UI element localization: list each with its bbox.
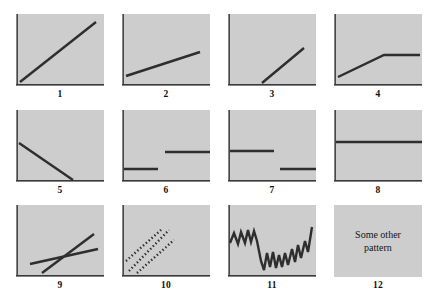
panel-4-rising-then-plateau [334,14,422,86]
panel-plot [334,14,422,86]
panel-8-flat-line [334,110,422,182]
panel-cell: 9 [14,205,106,299]
panel-plot [16,14,104,86]
pattern-grid-figure: 1234567891011Some other pattern12 [0,0,438,305]
data-line-1 [262,48,304,83]
panel-plot [228,205,316,277]
panel-5-falling-line [16,110,104,182]
panel-plot [228,14,316,86]
panel-text-label: Some other pattern [334,205,422,277]
panel-12-text-placeholder: Some other pattern [334,205,422,277]
panel-11-volatile-zigzag [228,205,316,277]
data-line-1 [338,55,420,77]
panel-plot [228,110,316,182]
panel-caption: 2 [164,89,169,100]
panel-cell: 3 [226,14,318,108]
panel-cell: 6 [120,110,212,204]
panel-caption: 3 [270,89,275,100]
panel-plot [122,205,210,277]
panel-caption: 5 [58,185,63,196]
panel-caption: 1 [58,89,63,100]
panel-cell: Some other pattern12 [332,205,424,299]
panel-cell: 4 [332,14,424,108]
panel-2-shallow-rising-line [122,14,210,86]
panel-plot [122,110,210,182]
panel-plot [16,205,104,277]
panel-caption: 4 [376,89,381,100]
panel-7-step-down [228,110,316,182]
panel-caption: 12 [373,280,383,291]
panel-plot [334,110,422,182]
panel-caption: 8 [376,185,381,196]
panel-3-delayed-rising-line [228,14,316,86]
panel-plot [122,14,210,86]
panel-caption: 9 [58,280,63,291]
panel-grid: 1234567891011Some other pattern12 [0,0,438,305]
panel-1-steep-rising-line [16,14,104,86]
data-line-1 [20,22,96,82]
panel-cell: 8 [332,110,424,204]
panel-cell: 10 [120,205,212,299]
data-line-1 [126,229,162,261]
panel-caption: 6 [164,185,169,196]
panel-plot [16,110,104,182]
panel-cell: 5 [14,110,106,204]
panel-caption: 10 [161,280,171,291]
data-line-1 [230,227,312,270]
data-line-2 [42,234,94,273]
panel-cell: 11 [226,205,318,299]
panel-cell: 1 [14,14,106,108]
panel-10-three-parallel-dotted-lines [122,205,210,277]
data-line-1 [19,143,73,180]
data-line-1 [126,52,200,76]
panel-cell: 7 [226,110,318,204]
panel-cell: 2 [120,14,212,108]
panel-6-step-up [122,110,210,182]
panel-caption: 7 [270,185,275,196]
panel-caption: 11 [267,280,276,291]
panel-9-crossing-lines [16,205,104,277]
